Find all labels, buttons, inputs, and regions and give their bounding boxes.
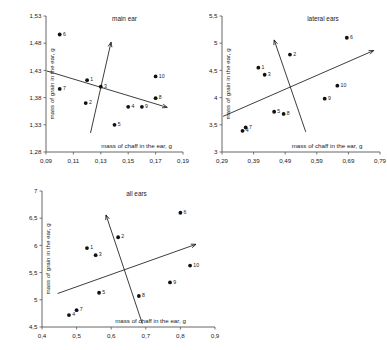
chart-panel-all-ears: 76,565,554,50,40,50,60,70,80,91234567891… xyxy=(10,175,230,350)
chart-panel-lateral-ears: 5,554,543,530,290,390,490,590,690,791234… xyxy=(192,0,387,175)
data-point xyxy=(179,211,183,215)
data-point-label: 7 xyxy=(80,306,83,312)
data-point-label: 2 xyxy=(121,233,124,239)
y-axis-tick-label: 6,5 xyxy=(29,214,38,221)
y-axis-title: mass of grain in the ear, g xyxy=(48,48,55,120)
x-axis-tick-label: 0,9 xyxy=(211,332,220,339)
data-point-label: 1 xyxy=(90,244,93,250)
data-point xyxy=(168,280,172,284)
regression-line xyxy=(106,215,142,324)
x-axis-tick-label: 0,29 xyxy=(216,157,229,164)
data-point-label: 3 xyxy=(99,251,102,257)
data-point-label: 6 xyxy=(184,209,187,215)
y-axis-tick-label: 4 xyxy=(214,94,218,101)
data-point-label: 9 xyxy=(145,103,148,109)
y-axis-tick-label: 5 xyxy=(214,39,218,46)
y-axis-tick-label: 1,38 xyxy=(29,94,42,101)
data-point xyxy=(288,53,292,57)
y-axis-tick-label: 3 xyxy=(214,148,218,155)
y-axis-tick-label: 1,28 xyxy=(29,148,42,155)
data-point xyxy=(345,36,349,40)
data-point-label: 5 xyxy=(102,289,105,295)
data-point xyxy=(126,105,130,109)
x-axis-tick-label: 0,7 xyxy=(141,332,150,339)
data-point-label: 5 xyxy=(118,121,121,127)
data-point xyxy=(85,78,89,82)
data-point-label: 10 xyxy=(159,73,165,79)
data-point-label: 4 xyxy=(131,103,134,109)
data-point xyxy=(241,129,245,133)
data-point-label: 1 xyxy=(262,64,265,70)
x-axis-tick-label: 0,17 xyxy=(150,157,163,164)
data-point xyxy=(244,126,248,130)
data-point-label: 8 xyxy=(159,94,162,100)
y-axis-tick-label: 1,53 xyxy=(29,12,42,19)
chart-title: lateral ears xyxy=(307,15,339,22)
y-axis-tick-label: 5 xyxy=(34,296,38,303)
data-point xyxy=(256,66,260,70)
x-axis-tick-label: 0,19 xyxy=(177,157,190,164)
data-point-label: 4 xyxy=(72,311,75,317)
y-axis-tick-label: 1,43 xyxy=(29,67,42,74)
data-point xyxy=(75,308,79,312)
x-axis-tick-label: 0,11 xyxy=(68,157,80,164)
data-point-label: 7 xyxy=(249,124,252,130)
x-axis-tick-label: 0,5 xyxy=(72,332,81,339)
y-axis-tick-label: 4,5 xyxy=(209,67,218,74)
data-point xyxy=(58,33,62,37)
data-point-label: 2 xyxy=(89,99,92,105)
x-axis-tick-label: 0,69 xyxy=(342,157,355,164)
data-point-label: 8 xyxy=(142,292,145,298)
y-axis-tick-label: 7 xyxy=(34,187,38,194)
data-point xyxy=(58,87,62,91)
data-point-label: 1 xyxy=(90,76,93,82)
data-point-label: 3 xyxy=(268,71,271,77)
y-axis-title: mass of grain in the ear, g xyxy=(224,48,231,120)
chart-title: main ear xyxy=(112,15,138,22)
data-point xyxy=(116,235,120,239)
data-point-label: 10 xyxy=(341,82,347,88)
x-axis-tick-label: 0,13 xyxy=(95,157,108,164)
y-axis-tick-label: 3,5 xyxy=(209,121,218,128)
y-axis-tick-label: 5,5 xyxy=(29,269,38,276)
data-point xyxy=(323,97,327,101)
y-axis-tick-label: 6 xyxy=(34,242,38,249)
data-point xyxy=(94,253,98,257)
data-point xyxy=(282,112,286,116)
x-axis-title: mass of chaff in the ear, g xyxy=(101,142,172,149)
x-axis-tick-label: 0,39 xyxy=(248,157,261,164)
data-point-label: 6 xyxy=(350,34,353,40)
data-point xyxy=(272,110,276,114)
data-point-label: 2 xyxy=(293,51,296,57)
regression-line xyxy=(58,244,196,293)
x-axis-title: mass of chaff in the ear, g xyxy=(292,142,363,149)
data-point-label: 7 xyxy=(63,85,66,91)
data-point xyxy=(137,294,141,298)
scatter-plot-lateral-ears: 5,554,543,530,290,390,490,590,690,791234… xyxy=(192,0,387,175)
data-point xyxy=(67,313,71,317)
data-point xyxy=(263,73,267,77)
data-point xyxy=(97,291,101,295)
data-point-label: 10 xyxy=(193,262,199,268)
y-axis-tick-label: 1,33 xyxy=(29,121,42,128)
data-point-label: 3 xyxy=(104,83,107,89)
data-point xyxy=(84,101,88,105)
x-axis-tick-label: 0,79 xyxy=(374,157,387,164)
x-axis-title: mass of chaff in the ear, g xyxy=(115,317,186,324)
data-point-label: 9 xyxy=(173,279,176,285)
y-axis-title: mass of grain in the ear, g xyxy=(44,223,51,295)
data-point-label: 9 xyxy=(328,95,331,101)
data-point xyxy=(85,246,89,250)
data-point xyxy=(140,105,144,109)
data-point-label: 5 xyxy=(277,108,280,114)
y-axis-tick-label: 5,5 xyxy=(209,12,218,19)
x-axis-tick-label: 0,49 xyxy=(279,157,292,164)
data-point xyxy=(188,264,192,268)
x-axis-tick-label: 0,15 xyxy=(122,157,135,164)
data-point xyxy=(154,74,158,78)
x-axis-tick-label: 0,6 xyxy=(107,332,116,339)
x-axis-tick-label: 0,4 xyxy=(38,332,47,339)
data-point xyxy=(99,85,103,89)
data-point xyxy=(113,123,117,127)
scatter-plot-main-ear: 1,531,481,431,381,331,280,090,110,130,15… xyxy=(0,0,195,175)
